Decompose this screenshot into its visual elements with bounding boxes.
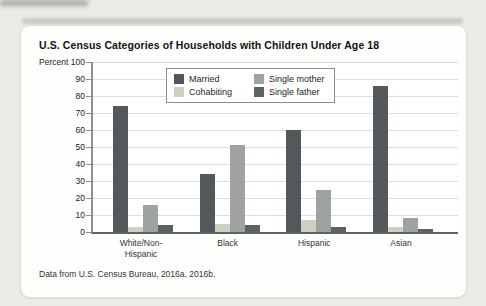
scan-artifact-top-left [0, 0, 88, 6]
y-tick-label-60: 60 [23, 125, 85, 135]
y-tick-100 [86, 62, 91, 63]
plot-area: MarriedCohabitingSingle motherSingle fat… [91, 62, 458, 234]
legend-item-single-father: Single father [254, 87, 325, 97]
y-tick-label-100: 100 [23, 57, 85, 67]
bar-single-mother-white-non-hispanic [143, 205, 158, 232]
bar-cohabiting-asian [388, 227, 403, 232]
y-tick-label-10: 10 [23, 210, 85, 220]
y-tick-0 [86, 232, 91, 233]
scan-artifact-top-band [22, 18, 463, 24]
legend-label-single-mother: Single mother [269, 74, 325, 84]
legend-item-cohabiting: Cohabiting [174, 87, 232, 97]
bar-cohabiting-black [215, 224, 230, 233]
bar-married-black [200, 174, 215, 232]
legend-label-cohabiting: Cohabiting [189, 87, 232, 97]
bar-single-mother-hispanic [316, 190, 331, 233]
y-tick-label-70: 70 [23, 108, 85, 118]
legend-swatch-married [174, 74, 184, 84]
chart-title: U.S. Census Categories of Households wit… [39, 39, 379, 51]
y-tick-10 [86, 215, 91, 216]
bar-single-mother-black [230, 145, 245, 232]
x-label-black: Black [186, 238, 270, 249]
y-tick-40 [86, 164, 91, 165]
source-footnote: Data from U.S. Census Bureau, 2016a, 201… [39, 269, 215, 279]
y-tick-label-0: 0 [23, 227, 85, 237]
bar-single-mother-asian [403, 218, 418, 232]
bar-single-father-white-non-hispanic [158, 225, 173, 232]
bar-single-father-asian [418, 229, 433, 232]
bar-married-white-non-hispanic [113, 106, 128, 232]
y-tick-label-20: 20 [23, 193, 85, 203]
y-tick-50 [86, 147, 91, 148]
bar-single-father-black [245, 225, 260, 232]
x-label-white-non-hispanic: White/Non- Hispanic [99, 238, 183, 260]
legend-label-married: Married [189, 74, 220, 84]
legend-swatch-single-mother [254, 74, 264, 84]
bar-cohabiting-white-non-hispanic [128, 227, 143, 232]
figure-card: U.S. Census Categories of Households wit… [20, 25, 467, 298]
bar-single-father-hispanic [331, 227, 346, 232]
bar-group-black [200, 145, 260, 232]
bar-married-hispanic [286, 130, 301, 232]
y-tick-20 [86, 198, 91, 199]
y-tick-label-40: 40 [23, 159, 85, 169]
x-label-asian: Asian [359, 238, 443, 249]
page-background: U.S. Census Categories of Households wit… [0, 0, 486, 306]
chart-legend: MarriedCohabitingSingle motherSingle fat… [166, 68, 335, 103]
y-tick-label-30: 30 [23, 176, 85, 186]
y-tick-30 [86, 181, 91, 182]
bar-cohabiting-hispanic [301, 220, 316, 232]
y-tick-label-50: 50 [23, 142, 85, 152]
y-tick-70 [86, 113, 91, 114]
bar-group-asian [373, 86, 433, 232]
legend-swatch-single-father [254, 87, 264, 97]
y-tick-80 [86, 96, 91, 97]
bar-group-hispanic [286, 130, 346, 232]
bar-married-asian [373, 86, 388, 232]
legend-label-single-father: Single father [269, 87, 320, 97]
legend-swatch-cohabiting [174, 87, 184, 97]
y-tick-label-80: 80 [23, 91, 85, 101]
legend-item-single-mother: Single mother [254, 74, 325, 84]
y-tick-label-90: 90 [23, 74, 85, 84]
x-label-hispanic: Hispanic [272, 238, 356, 249]
gridline-100 [93, 62, 458, 63]
legend-item-married: Married [174, 74, 232, 84]
y-tick-90 [86, 79, 91, 80]
bar-group-white-non-hispanic [113, 106, 173, 232]
y-tick-60 [86, 130, 91, 131]
